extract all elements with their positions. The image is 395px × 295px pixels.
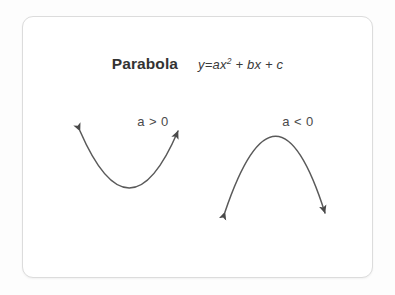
formula-suffix: + bx + c	[232, 57, 284, 72]
condition-label-a-greater-than-zero: a > 0	[110, 114, 196, 129]
formula-prefix: y=ax	[198, 57, 227, 72]
condition-label-a-less-than-zero: a < 0	[255, 114, 341, 129]
header-row: Parabolay=ax2 + bx + c	[23, 55, 372, 73]
parabola-card: Parabolay=ax2 + bx + c a > 0 a < 0	[22, 16, 373, 278]
parabola-formula: y=ax2 + bx + c	[198, 57, 283, 72]
page-title: Parabola	[112, 55, 178, 72]
